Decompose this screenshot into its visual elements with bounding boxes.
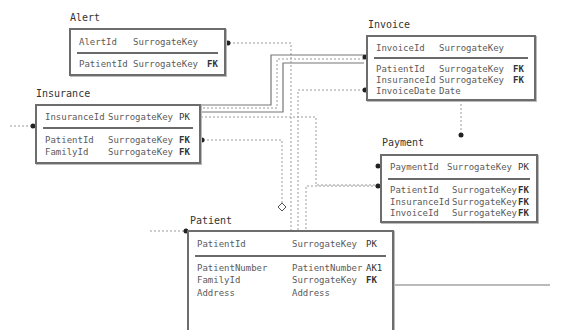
entity-payment[interactable]: PaymentId SurrogateKey PK PatientId Surr…	[380, 154, 538, 223]
field-key: FK	[366, 275, 377, 285]
field-type: SurrogateKey	[108, 135, 173, 145]
field-name: InvoiceId	[390, 208, 439, 218]
field-type: SurrogateKey	[452, 208, 517, 218]
field-name: PatientId	[197, 239, 246, 249]
field-type: SurrogateKey	[108, 112, 173, 122]
end-dot	[226, 41, 231, 46]
field-name: InsuranceId	[390, 197, 450, 207]
entity-title-insurance: Insurance	[36, 88, 90, 99]
field-key: FK	[179, 147, 190, 157]
field-name: AlertId	[79, 37, 117, 47]
field-name: PaymentId	[390, 162, 439, 172]
field-name: Address	[197, 288, 235, 298]
key-divider	[43, 127, 193, 129]
key-divider	[388, 178, 530, 180]
rel-insurance-patient	[203, 140, 282, 205]
entity-title-alert: Alert	[70, 12, 100, 23]
field-type: SurrogateKey	[447, 162, 512, 172]
field-type: PatientNumber	[292, 263, 362, 273]
field-key: PK	[366, 239, 377, 249]
field-type: Date	[439, 86, 461, 96]
field-key: PK	[518, 162, 529, 172]
entity-invoice[interactable]: InvoiceId SurrogateKey PatientId Surroga…	[366, 35, 536, 101]
field-type: SurrogateKey	[439, 75, 504, 85]
field-key: AK1	[366, 263, 382, 273]
entity-title-invoice: Invoice	[368, 19, 410, 30]
field-type: SurrogateKey	[133, 59, 198, 69]
diamond-marker	[278, 203, 286, 211]
field-type: SurrogateKey	[292, 239, 357, 249]
field-key: PK	[179, 112, 190, 122]
field-type: SurrogateKey	[439, 43, 504, 53]
field-key: FK	[179, 135, 190, 145]
field-key: FK	[518, 197, 529, 207]
field-name: FamilyId	[197, 275, 240, 285]
entity-title-patient: Patient	[190, 215, 232, 226]
field-type: SurrogateKey	[108, 147, 173, 157]
field-key: FK	[207, 59, 218, 69]
field-type: SurrogateKey	[452, 185, 517, 195]
field-name: InvoiceDate	[376, 86, 436, 96]
rel-insurance-payment	[201, 117, 377, 185]
field-type: SurrogateKey	[439, 64, 504, 74]
field-key: FK	[518, 208, 529, 218]
field-key: FK	[518, 185, 529, 195]
field-type: Address	[292, 288, 330, 298]
end-dot	[459, 133, 464, 138]
field-name: PatientId	[376, 64, 425, 74]
field-name: InsuranceId	[45, 112, 105, 122]
field-name: InvoiceId	[376, 43, 425, 53]
field-type: SurrogateKey	[292, 275, 357, 285]
field-type: SurrogateKey	[452, 197, 517, 207]
field-name: PatientId	[390, 185, 439, 195]
field-name: PatientId	[79, 59, 128, 69]
key-divider	[195, 255, 386, 257]
key-divider	[77, 52, 218, 54]
entity-alert[interactable]: AlertId SurrogateKey PatientId Surrogate…	[69, 28, 226, 76]
entity-title-payment: Payment	[382, 137, 424, 148]
field-name: FamilyId	[45, 147, 88, 157]
field-key: FK	[513, 75, 524, 85]
key-divider	[374, 57, 528, 59]
field-name: InsuranceId	[376, 75, 436, 85]
field-key: FK	[513, 64, 524, 74]
entity-insurance[interactable]: InsuranceId SurrogateKey PK PatientId Su…	[35, 104, 201, 164]
entity-patient[interactable]: PatientId SurrogateKey PK PatientNumber …	[187, 230, 394, 330]
field-type: SurrogateKey	[133, 37, 198, 47]
field-name: PatientId	[45, 135, 94, 145]
field-name: PatientNumber	[197, 263, 267, 273]
